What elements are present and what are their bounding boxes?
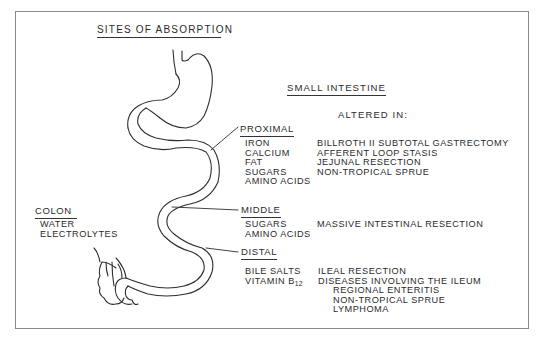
proximal-absorbs-list: IRON CALCIUM FAT SUGARS AMINO ACIDS — [245, 139, 311, 187]
vitamin-b-label: VITAMIN B — [245, 276, 295, 286]
middle-altered-list: MASSIVE INTESTINAL RESECTION — [317, 220, 483, 230]
small-intestine-heading: SMALL INTESTINE — [287, 83, 386, 96]
list-item: ELECTROLYTES — [40, 230, 118, 240]
middle-absorbs-list: SUGARS AMINO ACIDS — [245, 220, 311, 239]
section-label-proximal: PROXIMAL — [240, 124, 294, 137]
list-item: LYMPHOMA — [333, 305, 445, 315]
list-item: MASSIVE INTESTINAL RESECTION — [317, 220, 483, 230]
list-item: AMINO ACIDS — [245, 177, 311, 187]
distal-absorbs-list: BILE SALTS VITAMIN B12 — [245, 267, 303, 286]
distal-altered-list: ILEAL RESECTION DISEASES INVOLVING THE I… — [318, 267, 481, 286]
colon — [94, 248, 138, 305]
proximal-altered-list: BILLROTH II SUBTOTAL GASTRECTOMY AFFEREN… — [317, 139, 509, 177]
colon-absorbs-list: WATER ELECTROLYTES — [40, 220, 118, 239]
altered-in-label: ALTERED IN: — [338, 110, 408, 120]
esophagus — [173, 50, 188, 74]
section-label-distal: DISTAL — [241, 247, 277, 260]
list-item: VITAMIN B12 — [245, 277, 303, 287]
list-item: AMINO ACIDS — [245, 230, 311, 240]
section-label-colon: COLON — [35, 206, 77, 219]
figure-title: SITES OF ABSORPTION — [97, 25, 221, 38]
vitamin-subscript: 12 — [295, 280, 303, 287]
stomach — [128, 54, 213, 128]
small-intestine — [126, 108, 219, 296]
leader-distal — [206, 248, 238, 252]
leader-lines — [172, 127, 238, 252]
leader-middle — [172, 207, 238, 210]
list-item: NON-TROPICAL SPRUE — [317, 168, 509, 178]
section-label-middle: MIDDLE — [241, 205, 281, 218]
distal-altered-sublist: REGIONAL ENTERITIS NON-TROPICAL SPRUE LY… — [333, 286, 445, 315]
leader-proximal — [211, 127, 238, 150]
